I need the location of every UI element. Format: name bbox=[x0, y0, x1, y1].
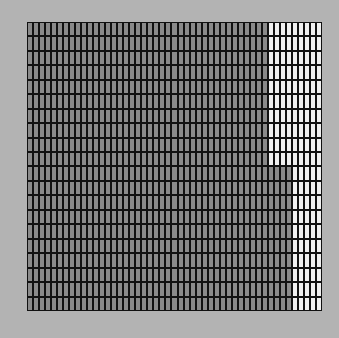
filled-cell bbox=[40, 167, 44, 179]
filled-cell bbox=[40, 298, 44, 310]
empty-cell bbox=[317, 139, 321, 151]
filled-cell bbox=[88, 269, 92, 281]
empty-cell bbox=[317, 110, 321, 122]
filled-cell bbox=[130, 66, 134, 78]
filled-cell bbox=[172, 269, 176, 281]
filled-cell bbox=[28, 211, 32, 223]
filled-cell bbox=[233, 23, 237, 35]
empty-cell bbox=[311, 81, 315, 93]
filled-cell bbox=[209, 225, 213, 237]
empty-cell bbox=[281, 66, 285, 78]
filled-cell bbox=[40, 153, 44, 165]
filled-cell bbox=[245, 269, 249, 281]
filled-cell bbox=[179, 225, 183, 237]
filled-cell bbox=[70, 81, 74, 93]
filled-cell bbox=[58, 240, 62, 252]
filled-cell bbox=[40, 81, 44, 93]
empty-cell bbox=[317, 196, 321, 208]
filled-cell bbox=[251, 225, 255, 237]
filled-cell bbox=[88, 23, 92, 35]
filled-cell bbox=[28, 66, 32, 78]
filled-cell bbox=[34, 52, 38, 64]
filled-cell bbox=[209, 66, 213, 78]
empty-cell bbox=[281, 95, 285, 107]
empty-cell bbox=[317, 167, 321, 179]
filled-cell bbox=[215, 240, 219, 252]
filled-cell bbox=[148, 182, 152, 194]
filled-cell bbox=[118, 139, 122, 151]
filled-cell bbox=[251, 124, 255, 136]
filled-cell bbox=[148, 139, 152, 151]
filled-cell bbox=[269, 254, 273, 266]
filled-cell bbox=[160, 110, 164, 122]
filled-cell bbox=[58, 95, 62, 107]
filled-cell bbox=[197, 283, 201, 295]
filled-cell bbox=[281, 167, 285, 179]
filled-cell bbox=[179, 139, 183, 151]
filled-cell bbox=[281, 269, 285, 281]
filled-cell bbox=[100, 139, 104, 151]
filled-cell bbox=[106, 37, 110, 49]
empty-cell bbox=[293, 269, 297, 281]
empty-cell bbox=[305, 139, 309, 151]
filled-cell bbox=[34, 110, 38, 122]
empty-cell bbox=[317, 225, 321, 237]
empty-cell bbox=[287, 66, 291, 78]
empty-cell bbox=[275, 124, 279, 136]
filled-cell bbox=[191, 37, 195, 49]
filled-cell bbox=[215, 182, 219, 194]
filled-cell bbox=[245, 66, 249, 78]
filled-cell bbox=[257, 196, 261, 208]
filled-cell bbox=[269, 196, 273, 208]
filled-cell bbox=[28, 52, 32, 64]
filled-cell bbox=[245, 225, 249, 237]
filled-cell bbox=[148, 225, 152, 237]
filled-cell bbox=[179, 66, 183, 78]
filled-cell bbox=[106, 23, 110, 35]
filled-cell bbox=[287, 254, 291, 266]
filled-cell bbox=[227, 124, 231, 136]
filled-cell bbox=[185, 196, 189, 208]
filled-cell bbox=[118, 124, 122, 136]
empty-cell bbox=[287, 52, 291, 64]
filled-cell bbox=[215, 167, 219, 179]
empty-cell bbox=[293, 298, 297, 310]
filled-cell bbox=[275, 225, 279, 237]
filled-cell bbox=[34, 196, 38, 208]
filled-cell bbox=[263, 124, 267, 136]
filled-cell bbox=[118, 153, 122, 165]
filled-cell bbox=[82, 269, 86, 281]
empty-cell bbox=[299, 81, 303, 93]
filled-cell bbox=[130, 110, 134, 122]
empty-cell bbox=[299, 196, 303, 208]
filled-cell bbox=[46, 182, 50, 194]
filled-cell bbox=[233, 269, 237, 281]
filled-cell bbox=[245, 283, 249, 295]
filled-cell bbox=[269, 211, 273, 223]
filled-cell bbox=[251, 139, 255, 151]
filled-cell bbox=[245, 110, 249, 122]
filled-cell bbox=[76, 269, 80, 281]
filled-cell bbox=[239, 81, 243, 93]
filled-cell bbox=[257, 283, 261, 295]
filled-cell bbox=[106, 196, 110, 208]
filled-cell bbox=[58, 167, 62, 179]
empty-cell bbox=[269, 139, 273, 151]
filled-cell bbox=[88, 167, 92, 179]
filled-cell bbox=[269, 182, 273, 194]
filled-cell bbox=[263, 81, 267, 93]
filled-cell bbox=[154, 211, 158, 223]
filled-cell bbox=[58, 269, 62, 281]
filled-cell bbox=[185, 23, 189, 35]
filled-cell bbox=[233, 124, 237, 136]
filled-cell bbox=[172, 124, 176, 136]
filled-cell bbox=[70, 298, 74, 310]
filled-cell bbox=[154, 124, 158, 136]
filled-cell bbox=[76, 66, 80, 78]
filled-cell bbox=[239, 124, 243, 136]
empty-cell bbox=[305, 167, 309, 179]
filled-cell bbox=[40, 139, 44, 151]
filled-cell bbox=[221, 283, 225, 295]
filled-cell bbox=[70, 139, 74, 151]
filled-cell bbox=[28, 182, 32, 194]
